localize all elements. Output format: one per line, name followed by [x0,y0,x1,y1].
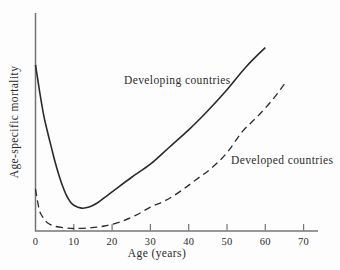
developed-countries-curve-label: Developed countries [231,154,333,166]
x-tick-label: 0 [33,236,39,247]
chart-plot-area [0,0,340,270]
curve-developing [36,48,266,209]
developing-countries-curve-label: Developing countries [124,74,231,86]
mortality-chart-figure: Age-specific mortality 010203040506070 A… [0,0,340,270]
x-tick-label: 40 [183,236,194,247]
x-tick-label: 10 [68,236,79,247]
y-axis-label: Age-specific mortality [8,66,20,179]
x-tick-label: 50 [221,236,232,247]
x-tick-label: 60 [260,236,271,247]
x-tick-label: 30 [145,236,156,247]
axes [36,13,319,231]
x-tick-label: 70 [298,236,309,247]
x-tick-label: 20 [107,236,118,247]
x-axis-label: Age (years) [128,247,186,259]
